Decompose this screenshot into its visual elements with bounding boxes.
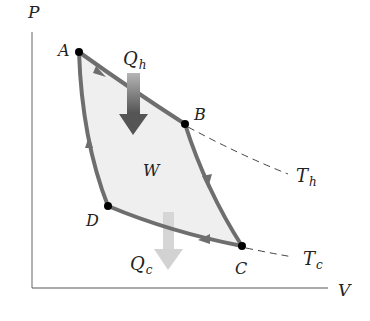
cold-isotherm-label: Tc xyxy=(303,248,323,272)
hot-isotherm-line xyxy=(188,127,288,174)
point-a-label: A xyxy=(56,41,70,60)
work-region xyxy=(79,52,242,246)
point-d xyxy=(104,202,112,210)
carnot-cycle-diagram: P V xyxy=(0,0,370,321)
work-label: W xyxy=(143,161,161,180)
x-axis-label: V xyxy=(338,280,352,300)
point-d-label: D xyxy=(85,211,99,230)
point-b-label: B xyxy=(193,105,206,124)
hot-isotherm-label: Th xyxy=(296,165,317,189)
point-b xyxy=(181,120,189,128)
point-c-label: C xyxy=(235,259,247,278)
cold-isotherm-line xyxy=(246,248,293,257)
point-c xyxy=(238,242,246,250)
heat-in-label: Qh xyxy=(123,48,147,72)
y-axis-label: P xyxy=(27,2,40,22)
point-a xyxy=(75,48,83,56)
heat-out-label: Qc xyxy=(130,253,153,277)
